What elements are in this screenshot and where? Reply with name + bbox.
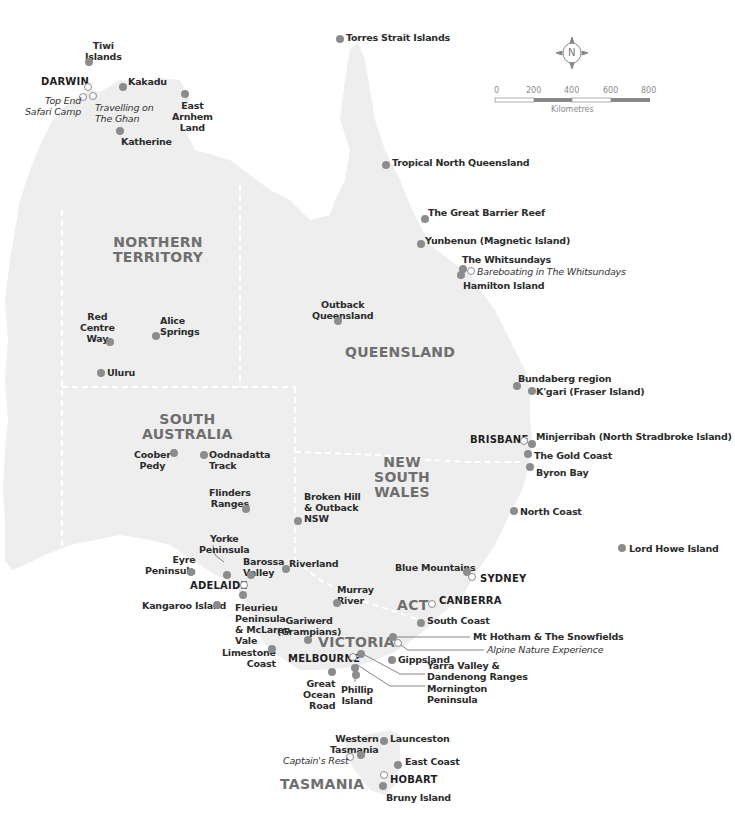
label-tropical-north-queensland: Tropical North Queensland xyxy=(392,157,529,168)
marker-tropical-north-queensland[interactable] xyxy=(382,161,390,169)
marker-the-ghan[interactable] xyxy=(89,92,97,100)
label-torres-strait-islands: Torres Strait Islands xyxy=(346,32,450,43)
marker-tiwi-islands[interactable] xyxy=(85,58,93,66)
label-hamilton-island: Hamilton Island xyxy=(463,280,544,291)
label-sydney: SYDNEY xyxy=(480,573,526,584)
marker-sydney[interactable] xyxy=(468,573,476,581)
label-bundaberg: Bundaberg region xyxy=(518,373,611,384)
marker-fleurieu[interactable] xyxy=(239,591,247,599)
label-outback-queensland: Outback Queensland xyxy=(312,299,373,321)
state-label-act: ACT xyxy=(397,598,429,613)
label-travelling-on-the-ghan: Travelling on The Ghan xyxy=(95,102,153,124)
marker-hamilton-island[interactable] xyxy=(457,271,465,279)
marker-broken-hill[interactable] xyxy=(294,517,302,525)
marker-oodnadatta[interactable] xyxy=(200,451,208,459)
marker-bundaberg[interactable] xyxy=(513,382,521,390)
label-bareboating: Bareboating in The Whitsundays xyxy=(477,266,626,277)
label-alice-springs: Alice Springs xyxy=(160,315,199,337)
marker-torres-strait-islands[interactable] xyxy=(336,35,344,43)
label-phillip-island: Phillip Island xyxy=(341,684,373,706)
state-label-nsw: NEW SOUTH WALES xyxy=(374,455,430,500)
label-grampians: Gariwerd (Grampians) xyxy=(277,615,341,637)
state-label-tas: TASMANIA xyxy=(280,777,364,792)
label-alpine-nature-experience: Alpine Nature Experience xyxy=(487,644,603,655)
marker-south-coast[interactable] xyxy=(417,619,425,627)
marker-kgari[interactable] xyxy=(528,387,536,395)
label-katherine: Katherine xyxy=(121,136,172,147)
label-hobart: HOBART xyxy=(390,774,438,785)
label-yunbenun: Yunbenun (Magnetic Island) xyxy=(425,235,570,246)
marker-limestone-coast[interactable] xyxy=(268,645,276,653)
state-label-qld: QUEENSLAND xyxy=(345,345,455,360)
label-the-whitsundays: The Whitsundays xyxy=(462,254,551,265)
label-yorke-peninsula: Yorke Peninsula xyxy=(199,533,249,555)
marker-great-ocean-road[interactable] xyxy=(328,668,336,676)
marker-minjerribah[interactable] xyxy=(528,440,536,448)
marker-hobart[interactable] xyxy=(380,771,388,779)
label-darwin: DARWIN xyxy=(41,76,89,87)
label-kakadu: Kakadu xyxy=(128,76,167,87)
marker-east-coast[interactable] xyxy=(394,761,402,769)
label-great-ocean-road: Great Ocean Road xyxy=(303,678,335,711)
marker-yarra-valley[interactable] xyxy=(357,650,365,658)
marker-bruny-island[interactable] xyxy=(379,782,387,790)
marker-north-coast[interactable] xyxy=(510,507,518,515)
label-east-arnhem-land: East Arnhem Land xyxy=(172,100,213,133)
marker-coober-pedy[interactable] xyxy=(170,449,178,457)
scale-tick-200: 200 xyxy=(526,86,541,95)
label-coober-pedy: Coober Pedy xyxy=(134,449,171,471)
label-kgari: K'gari (Fraser Island) xyxy=(536,386,645,397)
label-adelaide: ADELAIDE xyxy=(190,580,247,591)
label-western-tasmania: Western Tasmania xyxy=(330,733,378,755)
marker-bareboating[interactable] xyxy=(467,267,475,275)
label-oodnadatta: Oodnadatta Track xyxy=(209,449,270,471)
marker-western-tasmania[interactable] xyxy=(357,751,365,759)
marker-katherine[interactable] xyxy=(116,127,124,135)
marker-yunbenun[interactable] xyxy=(417,240,425,248)
label-broken-hill: Broken Hill & Outback NSW xyxy=(304,491,361,524)
marker-red-centre-way[interactable] xyxy=(106,338,114,346)
label-great-barrier-reef: The Great Barrier Reef xyxy=(428,207,545,218)
marker-flinders-ranges[interactable] xyxy=(242,505,250,513)
marker-gold-coast[interactable] xyxy=(524,450,532,458)
marker-brisbane[interactable] xyxy=(520,437,528,445)
compass-north-label: N xyxy=(568,47,575,58)
marker-alice-springs[interactable] xyxy=(152,332,160,340)
label-byron-bay: Byron Bay xyxy=(536,467,588,478)
marker-kakadu[interactable] xyxy=(119,83,127,91)
marker-yorke-peninsula[interactable] xyxy=(223,571,231,579)
marker-launceston[interactable] xyxy=(380,737,388,745)
label-lord-howe-island: Lord Howe Island xyxy=(629,543,719,554)
scale-unit-label: Kilometres xyxy=(551,105,594,114)
label-gold-coast: The Gold Coast xyxy=(534,450,612,461)
marker-east-arnhem-land[interactable] xyxy=(181,90,189,98)
marker-alpine-nature-experience[interactable] xyxy=(394,639,402,647)
marker-phillip-island[interactable] xyxy=(352,671,360,679)
state-label-nt: NORTHERN TERRITORY xyxy=(113,235,203,265)
marker-byron-bay[interactable] xyxy=(526,463,534,471)
state-label-vic: VICTORIA xyxy=(318,635,395,650)
label-mt-hotham: Mt Hotham & The Snowfields xyxy=(473,631,624,642)
marker-murray-river[interactable] xyxy=(333,599,341,607)
marker-barossa-valley[interactable] xyxy=(247,571,255,579)
marker-lord-howe-island[interactable] xyxy=(618,544,626,552)
label-mornington: Mornington Peninsula xyxy=(427,683,487,705)
label-captains-rest: Captain's Rest xyxy=(283,755,349,766)
label-yarra-valley: Yarra Valley & Dandenong Ranges xyxy=(427,660,528,682)
label-east-coast: East Coast xyxy=(405,756,460,767)
marker-gippsland[interactable] xyxy=(388,656,396,664)
label-uluru: Uluru xyxy=(107,367,135,378)
marker-outback-queensland[interactable] xyxy=(334,317,342,325)
scale-tick-600: 600 xyxy=(603,86,618,95)
state-label-sa: SOUTH AUSTRALIA xyxy=(142,412,233,442)
marker-adelaide[interactable] xyxy=(240,581,248,589)
marker-melbourne[interactable] xyxy=(349,653,357,661)
label-riverland: Riverland xyxy=(289,558,338,569)
scale-bar xyxy=(495,98,650,102)
marker-kangaroo-island[interactable] xyxy=(213,601,221,609)
marker-eyre-peninsula[interactable] xyxy=(187,568,195,576)
marker-canberra[interactable] xyxy=(428,600,436,608)
marker-uluru[interactable] xyxy=(97,369,105,377)
marker-grampians[interactable] xyxy=(304,636,312,644)
marker-darwin[interactable] xyxy=(84,83,92,91)
